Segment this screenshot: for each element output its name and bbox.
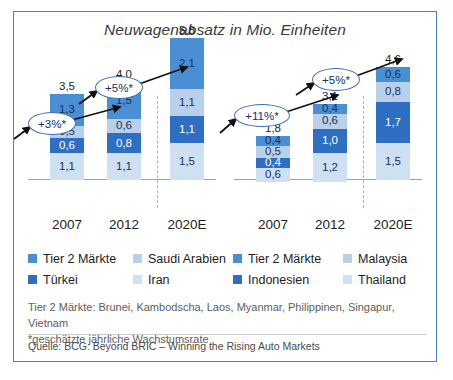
segment-value-label: 1,5: [179, 156, 195, 168]
x-axis-label: 2020E: [363, 217, 423, 232]
plot-area-right: 0,40,50,40,61,80,40,61,01,23,10,60,81,71…: [226, 38, 426, 208]
bar-segment: 1,2: [313, 153, 347, 182]
legend-color-swatch: [343, 275, 352, 284]
source-line: Quelle: BCG: Beyond BRIC – Winning the R…: [28, 340, 428, 352]
plot-divider-left: [157, 96, 158, 208]
legend-label: Tier 2 Märkte: [248, 252, 321, 266]
bar-total-label: 5,8: [170, 24, 204, 36]
x-axis-label: 2012: [94, 217, 154, 232]
growth-rate-callout: +11%*: [234, 104, 290, 127]
segment-value-label: 1,1: [179, 97, 195, 109]
legend-color-swatch: [343, 254, 352, 263]
x-axis-labels-left: 200720122020E: [20, 210, 220, 232]
legend-label: Saudi Arabien: [148, 252, 226, 266]
segment-value-label: 1,1: [179, 124, 195, 136]
x-axis-label: 2007: [243, 217, 303, 232]
footnote-tier2: Tier 2 Märkte: Brunei, Kambodscha, Laos,…: [28, 300, 428, 332]
bar-segment: 1,1: [107, 153, 141, 180]
legend-color-swatch: [133, 254, 142, 263]
plot-area-left: 1,30,50,61,13,51,50,60,81,14,02,11,11,11…: [20, 38, 220, 208]
bar-segment: 0,6: [256, 168, 290, 183]
legend-label: Türkei: [43, 273, 78, 287]
segment-value-label: 1,1: [59, 161, 75, 173]
plot-divider-right: [363, 96, 364, 208]
legend-color-swatch: [28, 275, 37, 284]
legend-column: Saudi ArabienIran: [133, 248, 226, 290]
legend-color-swatch: [233, 275, 242, 284]
legend-column: Tier 2 MärkteTürkei: [28, 248, 116, 290]
segment-value-label: 0,6: [265, 169, 281, 181]
growth-rate-callout: +5%*: [312, 68, 360, 91]
footer-divider: [28, 334, 426, 335]
legend-label: Indonesien: [248, 273, 309, 287]
bar-segment: 1,5: [170, 143, 204, 180]
x-axis-label: 2012: [300, 217, 360, 232]
x-axis-labels-right: 200720122020E: [226, 210, 426, 232]
segment-value-label: 1,7: [385, 117, 401, 129]
stacked-bar-2007: 0,40,50,40,6: [256, 136, 290, 180]
x-axis-label: 2020E: [157, 217, 217, 232]
legend-color-swatch: [233, 254, 242, 263]
legend-label: Tier 2 Märkte: [43, 252, 116, 266]
legend-label: Malaysia: [358, 252, 407, 266]
chart-frame: Neuwagenabsatz in Mio. Einheiten 1,30,50…: [13, 11, 437, 362]
legend-item[interactable]: Thailand: [343, 269, 407, 290]
bar-segment: 0,6: [50, 138, 84, 153]
chart-panel-right: 0,40,50,40,61,80,40,61,01,23,10,60,81,71…: [226, 38, 426, 236]
x-axis-label: 2007: [37, 217, 97, 232]
legend-item[interactable]: Tier 2 Märkte: [28, 248, 116, 269]
legend-item[interactable]: Indonesien: [233, 269, 321, 290]
legend-item[interactable]: Türkei: [28, 269, 116, 290]
legend-label: Iran: [148, 273, 170, 287]
segment-value-label: 1,2: [322, 162, 338, 174]
segment-value-label: 0,8: [116, 138, 132, 150]
bar-segment: 1,0: [313, 129, 347, 153]
growth-rate-callout: +5%*: [95, 76, 143, 99]
legend-color-swatch: [28, 254, 37, 263]
legend-item[interactable]: Tier 2 Märkte: [233, 248, 321, 269]
growth-rate-callout: +3%*: [28, 112, 76, 135]
bar-segment: 0,4: [256, 158, 290, 168]
bar-segment: 1,5: [376, 143, 410, 180]
page-title: Neuwagenabsatz in Mio. Einheiten: [14, 21, 436, 39]
segment-value-label: 1,1: [116, 161, 132, 173]
chart-panel-left: 1,30,50,61,13,51,50,60,81,14,02,11,11,11…: [20, 38, 220, 236]
bar-segment: 1,1: [170, 116, 204, 143]
segment-value-label: 0,6: [59, 140, 75, 152]
legend-column: Tier 2 MärkteIndonesien: [233, 248, 321, 290]
legend-item[interactable]: Malaysia: [343, 248, 407, 269]
legend-item[interactable]: Iran: [133, 269, 226, 290]
legend-color-swatch: [133, 275, 142, 284]
bar-segment: 1,1: [50, 153, 84, 180]
legend-item[interactable]: Saudi Arabien: [133, 248, 226, 269]
legend-column: MalaysiaThailand: [343, 248, 407, 290]
bar-segment: 0,8: [107, 133, 141, 153]
chart-legend: Tier 2 MärkteTürkeiSaudi ArabienIranTier…: [28, 248, 426, 292]
bar-segment: 1,7: [376, 102, 410, 144]
segment-value-label: 1,0: [322, 135, 338, 147]
legend-label: Thailand: [358, 273, 406, 287]
segment-value-label: 1,5: [385, 156, 401, 168]
